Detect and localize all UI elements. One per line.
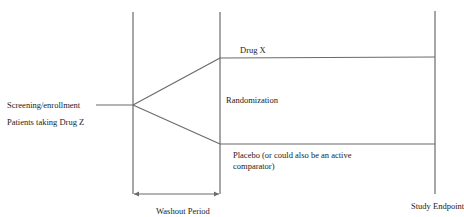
branch-up xyxy=(133,58,220,105)
randomization-label: Randomization xyxy=(226,95,278,105)
washout-label: Washout Period xyxy=(156,206,210,216)
drug-x-arm xyxy=(220,57,435,58)
branch-down xyxy=(133,105,220,144)
drug-x-label: Drug X xyxy=(240,45,266,55)
endpoint-label: Study Endpoint xyxy=(411,201,464,211)
screening-label: Screening/enrollment xyxy=(7,100,80,110)
arrow-left-icon xyxy=(134,192,139,197)
placebo-label-line1: Placebo (or could also be an active xyxy=(233,150,351,160)
patients-label: Patients taking Drug Z xyxy=(7,117,84,127)
arrow-right-icon xyxy=(214,192,219,197)
placebo-label-line2: comparator) xyxy=(233,161,275,171)
